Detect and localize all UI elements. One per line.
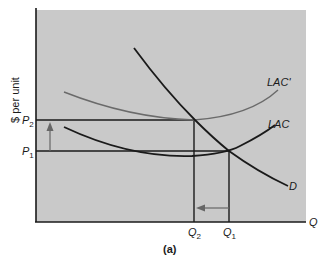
- q1-label: Q1: [223, 226, 237, 241]
- plot-area: [36, 10, 306, 222]
- economics-chart: LAC' LAC D P2 P1 Q2 Q1 Q $ per unit (a): [0, 0, 318, 270]
- demand-label: D: [289, 180, 297, 192]
- q2-label: Q2: [188, 226, 202, 241]
- lac-label: LAC: [268, 118, 289, 130]
- lac-prime-label: LAC': [267, 76, 291, 88]
- panel-label: (a): [163, 243, 177, 255]
- x-axis-title: Q: [309, 216, 318, 228]
- p1-label: P1: [22, 145, 34, 160]
- y-axis-title: $ per unit: [9, 77, 21, 123]
- p2-label: P2: [22, 114, 34, 129]
